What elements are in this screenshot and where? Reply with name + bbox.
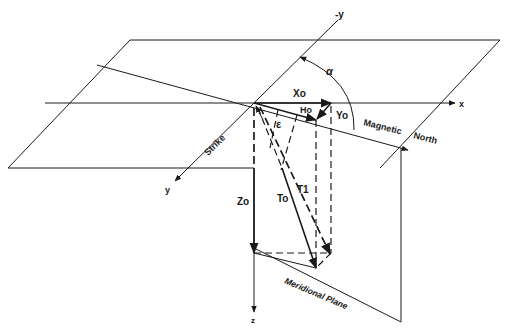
bottom-dash-diag xyxy=(316,253,331,268)
magnetic-label: Magnetic xyxy=(363,117,403,136)
alpha-label: α xyxy=(326,65,334,77)
epsilon-dash-2 xyxy=(281,115,297,170)
neg-y-label: -y xyxy=(335,9,344,20)
t1-vector xyxy=(260,107,330,254)
xo-label: Xo xyxy=(293,88,306,99)
north-label: North xyxy=(413,130,439,146)
meridional-plane-label: Meridional Plane xyxy=(283,276,349,312)
epsilon-label: ε xyxy=(276,118,282,130)
zo-label: Zo xyxy=(237,196,249,207)
strike-label: Strike xyxy=(202,133,227,158)
field-component-diagram: x -y y Strike Magnetic North α Xo Ho Yo … xyxy=(0,0,514,332)
yo-vector xyxy=(317,103,331,119)
x-axis-label: x xyxy=(459,99,464,109)
ho-label: Ho xyxy=(300,105,312,115)
bottom-solid-diag xyxy=(254,253,316,268)
magnetic-north-line xyxy=(97,65,408,150)
to-label: To xyxy=(277,193,288,204)
yo-label: Yo xyxy=(336,110,348,121)
z-axis-label: z xyxy=(251,316,255,325)
y-axis-line xyxy=(178,20,338,178)
y-axis-label: y xyxy=(165,185,170,195)
t1-label: T1 xyxy=(297,184,309,195)
